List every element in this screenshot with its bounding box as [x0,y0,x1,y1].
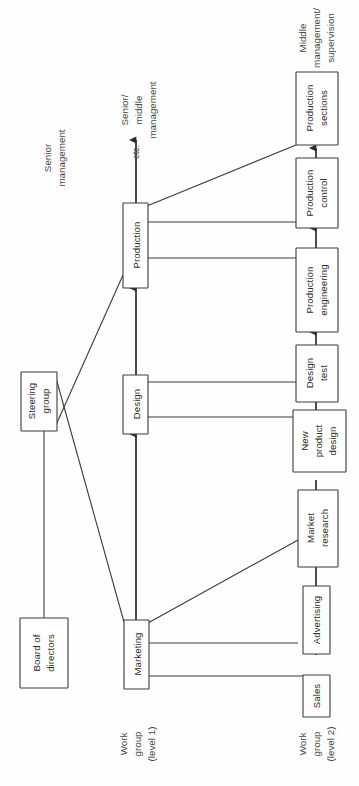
node-label-line-1: Market [305,513,316,543]
node-label-line-2: product [313,424,324,457]
node-label-line-1: Production [304,170,315,217]
node-label-line-2: test [318,365,329,381]
node-label-line-1: New [299,431,310,451]
node-new-product-design[interactable]: New product design [293,410,346,472]
annotation-work-group-level-1: Work group (level 1) [118,727,157,762]
annotation-line-1: Work [118,733,129,756]
node-steering-group[interactable]: Steering group [21,372,57,431]
node-label-line-1: Production [304,267,315,314]
node-marketing[interactable]: Marketing [124,620,149,689]
node-label-line-2: sections [318,90,329,126]
node-label-line-3: design [327,427,338,456]
annotation-line-3: (level 2) [325,727,336,762]
annotation-line-3: management [147,81,158,138]
diagram-canvas: Board of directors Steering group Produc… [0,0,359,786]
node-label-line-1: Design [304,358,315,388]
annotation-line-2: management/ [311,8,322,68]
annotation-senior-middle-management: Senior/ middle management [119,81,158,138]
connector-layer [44,140,316,676]
node-label-line-1: Steering [26,383,37,420]
node-production[interactable]: Production [123,203,148,288]
annotation-work-group-level-2: Work group (level 2) [297,727,336,762]
annotation-line-1: Senior/ [119,94,130,125]
annotation-line-3: supervision [325,13,336,63]
annotation-line-2: group [132,731,143,757]
node-label-line-1: Design [131,389,142,419]
connector-steering-to-production [56,275,123,425]
node-advertising[interactable]: Advertising [303,586,330,654]
connector-marketing-to-market-research [148,540,298,623]
node-production-control[interactable]: Production control [296,158,338,228]
node-label-line-2: engineering [318,264,329,315]
annotation-line-2: group [311,731,322,757]
node-label-line-1: Marketing [132,632,143,675]
organisation-chart-diagram: Board of directors Steering group Produc… [0,0,359,786]
node-production-sections[interactable]: Production sections [296,72,338,145]
node-market-research[interactable]: Market research [298,490,338,567]
connector-production-to-production-sections [147,145,296,206]
annotation-line-2: management [56,129,67,186]
annotation-line-1: Middle [297,23,308,52]
annotation-line-1: Senior [42,143,53,172]
annotation-line-1: Work [297,733,308,756]
node-label-line-2: directors [45,634,56,672]
node-label-line-1: Advertising [311,596,322,645]
node-label-line-2: control [318,178,329,208]
annotation-line-1: etc. [131,145,141,159]
annotation-senior-management: Senior management [42,129,67,186]
node-label-line-1: Production [131,222,142,269]
annotation-middle-management-supervision: Middle management/ supervision [297,8,336,68]
annotation-etc: etc. [131,145,141,159]
node-label-line-2: research [319,509,330,547]
node-sales[interactable]: Sales [303,675,330,717]
annotation-line-2: middle [133,95,144,124]
node-label-line-1: Production [304,85,315,132]
node-label-line-2: group [40,388,51,413]
node-board-of-directors[interactable]: Board of directors [20,618,68,688]
node-label-line-1: Sales [311,684,322,709]
annotation-line-3: (level 1) [146,727,157,762]
connector-steering-to-marketing [56,378,124,622]
node-label-line-1: Board of [31,634,42,671]
node-production-engineering[interactable]: Production engineering [296,248,338,332]
node-design-test[interactable]: Design test [296,345,338,402]
node-design[interactable]: Design [123,375,148,434]
